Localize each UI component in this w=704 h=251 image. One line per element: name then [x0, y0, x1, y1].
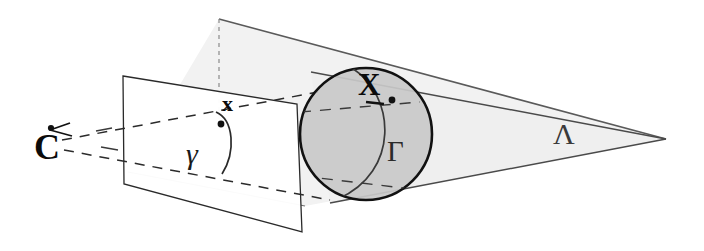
image-point-dot [218, 121, 225, 128]
label-cone: Λ [553, 119, 575, 149]
label-image-point: x [222, 93, 233, 115]
label-image-conic: γ [186, 139, 198, 169]
figure-canvas [0, 0, 704, 251]
label-camera-centre: C [34, 129, 60, 165]
sphere-point-dot [389, 97, 396, 104]
geometry-figure: C x γ X Γ Λ [0, 0, 704, 251]
label-contour-generator: Γ [387, 137, 404, 166]
label-sphere-point: X [358, 69, 380, 100]
